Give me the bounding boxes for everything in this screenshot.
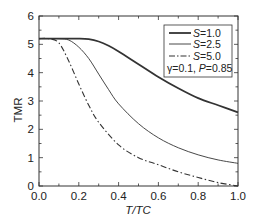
legend-note: γ=0.1, P=0.85 <box>167 62 233 74</box>
y-tick-label: 5 <box>28 38 34 50</box>
tmr-vs-temperature-chart: 0.00.20.40.60.81.00123456 TMR T/TC S=1.0… <box>0 0 255 224</box>
y-tick-label: 6 <box>28 10 34 22</box>
y-tick-label: 4 <box>28 67 35 79</box>
y-tick-label: 3 <box>28 95 34 107</box>
x-tick-label: 0.6 <box>150 190 166 202</box>
x-tick-label: 0.2 <box>71 190 87 202</box>
legend: S=1.0 S=2.5 S=5.0 γ=0.1, P=0.85 <box>164 25 233 77</box>
legend-label-s3: S=5.0 <box>193 50 221 62</box>
x-tick-label: 1.0 <box>230 190 246 202</box>
y-axis-label: TMR <box>12 98 24 123</box>
y-tick-label: 2 <box>28 123 34 135</box>
y-tick-label: 0 <box>28 180 34 192</box>
x-tick-label: 0.4 <box>111 190 128 202</box>
legend-label-s2: S=2.5 <box>193 38 221 50</box>
x-axis-label: T/TC <box>125 204 151 216</box>
x-tick-label: 0.8 <box>190 190 206 202</box>
y-tick-label: 1 <box>28 152 34 164</box>
